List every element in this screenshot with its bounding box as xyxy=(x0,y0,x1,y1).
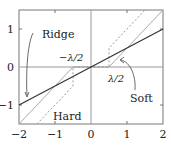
x-tick: 2 xyxy=(160,128,167,141)
hard-label: Hard xyxy=(53,110,81,123)
y-tick: 1 xyxy=(7,23,14,36)
y-tick: −1 xyxy=(0,99,14,112)
threshold-chart: Ridge −λ/2 λ/2 Soft Hard −2 −1 0 1 2 1 0… xyxy=(0,0,171,146)
y-tick: 0 xyxy=(7,61,14,74)
ridge-label: Ridge xyxy=(42,28,74,41)
ridge-arrow xyxy=(27,33,33,95)
x-tick-labels: −2 −1 0 1 2 xyxy=(11,128,167,141)
neg-lambda-label: −λ/2 xyxy=(59,52,83,63)
x-tick: 0 xyxy=(88,128,95,141)
soft-label: Soft xyxy=(130,92,153,105)
pos-lambda-label: λ/2 xyxy=(107,73,124,84)
x-tick: 1 xyxy=(124,128,131,141)
y-tick-labels: 1 0 −1 xyxy=(0,23,14,112)
x-tick: −2 xyxy=(11,128,27,141)
x-tick: −1 xyxy=(47,128,63,141)
